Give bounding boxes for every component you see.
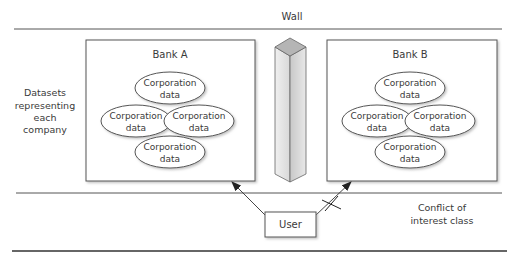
svg-text:data: data <box>160 154 180 164</box>
svg-text:each: each <box>34 112 57 123</box>
chinese-wall-diagram: Wall Datasets representing each company … <box>0 0 516 254</box>
bank-a: Bank A Corporation data Corporation data… <box>86 40 255 181</box>
svg-text:company: company <box>23 124 67 135</box>
svg-text:Datasets: Datasets <box>24 87 66 98</box>
conflict-of-interest-label: Conflict of interest class <box>410 202 473 226</box>
svg-text:Corporation: Corporation <box>350 111 403 121</box>
svg-text:Corporation: Corporation <box>143 78 196 88</box>
dataset-ellipse: Corporation data <box>101 105 171 137</box>
wall-pillar-icon <box>275 38 306 182</box>
arrow-user-to-bank-b <box>316 182 351 215</box>
bank-a-title: Bank A <box>152 49 187 60</box>
svg-text:representing: representing <box>15 100 75 111</box>
dataset-ellipse: Corporation data <box>375 72 445 104</box>
svg-text:data: data <box>160 90 180 100</box>
dataset-ellipse: Corporation data <box>135 72 205 104</box>
dataset-ellipse: Corporation data <box>342 105 412 137</box>
svg-text:data: data <box>367 123 387 133</box>
user-box: User <box>265 212 316 237</box>
datasets-label: Datasets representing each company <box>15 87 75 135</box>
svg-text:data: data <box>430 123 450 133</box>
dataset-ellipse: Corporation data <box>375 136 445 168</box>
denied-x-icon <box>322 196 341 211</box>
svg-text:interest class: interest class <box>410 215 473 226</box>
svg-text:Corporation: Corporation <box>143 142 196 152</box>
svg-text:data: data <box>400 90 420 100</box>
svg-text:Corporation: Corporation <box>383 142 436 152</box>
dataset-ellipse: Corporation data <box>164 105 234 137</box>
bank-b: Bank B Corporation data Corporation data… <box>327 40 497 181</box>
svg-text:data: data <box>126 123 146 133</box>
dataset-ellipse: Corporation data <box>405 105 475 137</box>
wall-title: Wall <box>282 11 303 22</box>
svg-text:Corporation: Corporation <box>383 78 436 88</box>
bank-b-title: Bank B <box>392 49 427 60</box>
arrow-user-to-bank-a <box>232 182 265 215</box>
user-label: User <box>279 219 303 230</box>
svg-text:Conflict of: Conflict of <box>418 202 467 213</box>
svg-text:data: data <box>189 123 209 133</box>
svg-text:data: data <box>400 154 420 164</box>
dataset-ellipse: Corporation data <box>135 136 205 168</box>
svg-text:Corporation: Corporation <box>172 111 225 121</box>
svg-text:Corporation: Corporation <box>413 111 466 121</box>
svg-text:Corporation: Corporation <box>109 111 162 121</box>
